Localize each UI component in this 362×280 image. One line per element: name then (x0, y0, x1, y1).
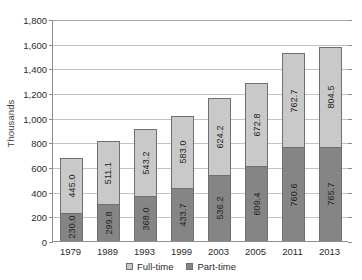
legend-item[interactable]: Part-time (186, 261, 236, 272)
x-axis-tick-label: 1993 (134, 246, 155, 257)
y-axis-tick-label: 400 (7, 187, 47, 198)
y-axis-tick-right (348, 242, 352, 243)
x-axis-tick-label: 1989 (97, 246, 118, 257)
y-axis-tick-right (348, 217, 352, 218)
x-axis-tick-label: 2003 (208, 246, 229, 257)
bar-value-label: 804.5 (326, 86, 336, 109)
plot-area: 445.0230.0511.1299.8543.2368.0583.0433.7… (52, 20, 348, 242)
bar-segment-part-time[interactable]: 609.4 (245, 166, 268, 241)
bar-value-label: 511.1 (104, 162, 114, 184)
y-axis-tick-right (348, 94, 352, 95)
legend-label: Full-time (137, 261, 173, 272)
y-axis-tick-right (348, 143, 352, 144)
bar-segment-full-time[interactable]: 543.2 (134, 129, 157, 196)
y-axis-tick-right (348, 168, 352, 169)
y-axis-tick-label: 800 (7, 138, 47, 149)
x-axis-tick-labels: 19791989199319992003200520112013 (52, 244, 348, 260)
x-axis-tick-label: 1979 (60, 246, 81, 257)
y-axis-tick-label: 1,400 (7, 64, 47, 75)
bar-value-label: 299.8 (104, 212, 114, 235)
x-axis-tick-label: 2011 (282, 246, 302, 257)
bar-value-label: 368.0 (141, 207, 151, 230)
bar-value-label: 543.2 (141, 151, 151, 174)
bar-segment-full-time[interactable]: 804.5 (319, 47, 342, 146)
y-axis-tick-label: 1,000 (7, 113, 47, 124)
bar-value-label: 760.6 (289, 183, 299, 206)
x-axis-tick-label: 2005 (245, 246, 266, 257)
bar-value-label: 624.2 (215, 125, 225, 148)
y-axis-tick-right (348, 193, 352, 194)
y-axis-tick-label: 1,800 (7, 15, 47, 26)
bar-segment-full-time[interactable]: 445.0 (60, 158, 83, 213)
bar-group[interactable]: 511.1299.8 (97, 141, 120, 241)
bar-segment-full-time[interactable]: 624.2 (208, 98, 231, 175)
bar-group[interactable]: 762.7760.6 (282, 53, 305, 241)
bar-segment-part-time[interactable]: 433.7 (171, 188, 194, 241)
bar-value-label: 583.0 (178, 141, 188, 164)
legend-label: Part-time (197, 261, 236, 272)
stacked-bar-chart: Thousands 445.0230.0511.1299.8543.2368.0… (0, 0, 362, 280)
y-axis-tick-label: 1,200 (7, 89, 47, 100)
bars-layer: 445.0230.0511.1299.8543.2368.0583.0433.7… (53, 20, 348, 241)
legend-item[interactable]: Full-time (126, 261, 173, 272)
y-axis-tick-label: 0 (7, 237, 47, 248)
chart-legend: Full-timePart-time (0, 261, 362, 272)
bar-segment-full-time[interactable]: 511.1 (97, 141, 120, 204)
x-axis-tick-label: 1999 (171, 246, 192, 257)
bar-value-label: 433.7 (178, 203, 188, 226)
y-axis-tick-label: 1,600 (7, 39, 47, 50)
bar-segment-part-time[interactable]: 765.7 (319, 147, 342, 241)
bar-segment-full-time[interactable]: 672.8 (245, 83, 268, 166)
y-axis-tick-label: 200 (7, 212, 47, 223)
bar-value-label: 445.0 (67, 174, 77, 197)
y-axis-tick (49, 242, 53, 243)
bar-value-label: 672.8 (252, 113, 262, 136)
bar-value-label: 765.7 (326, 183, 336, 206)
y-axis-tick-label: 600 (7, 163, 47, 174)
x-axis-tick-label: 2013 (319, 246, 340, 257)
bar-value-label: 609.4 (252, 192, 262, 215)
y-axis-tick-right (348, 45, 352, 46)
bar-segment-part-time[interactable]: 368.0 (134, 196, 157, 241)
bar-segment-full-time[interactable]: 583.0 (171, 116, 194, 188)
bar-segment-full-time[interactable]: 762.7 (282, 53, 305, 147)
bar-group[interactable]: 672.8609.4 (245, 83, 268, 241)
bar-segment-part-time[interactable]: 299.8 (97, 204, 120, 241)
bar-value-label: 230.0 (67, 216, 77, 239)
bar-value-label: 762.7 (289, 89, 299, 112)
bar-segment-part-time[interactable]: 230.0 (60, 213, 83, 241)
bar-group[interactable]: 445.0230.0 (60, 158, 83, 241)
legend-swatch-icon (126, 263, 133, 270)
bar-group[interactable]: 624.2536.2 (208, 98, 231, 241)
bar-value-label: 536.2 (215, 197, 225, 220)
y-axis-tick-right (348, 119, 352, 120)
bar-group[interactable]: 543.2368.0 (134, 129, 157, 241)
bar-group[interactable]: 583.0433.7 (171, 116, 194, 241)
bar-segment-part-time[interactable]: 760.6 (282, 147, 305, 241)
y-axis-tick-right (348, 69, 352, 70)
bar-segment-part-time[interactable]: 536.2 (208, 175, 231, 241)
y-axis-tick-right (348, 20, 352, 21)
bar-group[interactable]: 804.5765.7 (319, 47, 342, 241)
legend-swatch-icon (186, 263, 193, 270)
